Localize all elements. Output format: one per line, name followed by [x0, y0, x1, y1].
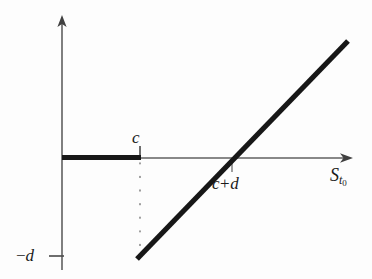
- payoff-sloped-segment: [137, 41, 348, 259]
- label-x-axis-subsubscript: 0: [342, 178, 347, 188]
- label-c-plus-d-right: d: [230, 174, 239, 193]
- payoff-diagram-figure: c c+d −d St0: [0, 0, 372, 279]
- label-minus-d-operator: −: [16, 246, 26, 265]
- payoff-curve-group: [62, 41, 348, 259]
- label-c-plus-d-operator: +: [220, 174, 231, 193]
- plot-canvas: [0, 0, 372, 279]
- label-minus-d-symbol: d: [26, 246, 35, 265]
- label-minus-d: −d: [16, 247, 34, 264]
- axes-group: [57, 15, 353, 270]
- label-c-plus-d: c+d: [212, 175, 239, 192]
- label-c-plus-d-left: c: [212, 174, 220, 193]
- label-x-axis: St0: [330, 166, 347, 188]
- label-x-axis-symbol: S: [330, 165, 339, 185]
- label-strike-c: c: [132, 129, 140, 146]
